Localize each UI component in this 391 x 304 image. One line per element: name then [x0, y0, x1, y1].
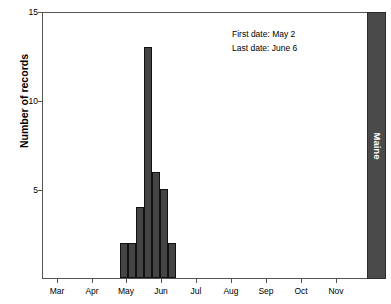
annotation-last-date: Last date: June 6	[232, 43, 297, 53]
bar-5	[160, 189, 168, 278]
x-tick-mark-mar	[57, 279, 58, 283]
panel-strip-maine: Maine	[367, 12, 386, 279]
x-tick-label-jul: Jul	[191, 286, 202, 296]
x-tick-mark-oct	[301, 279, 302, 283]
x-tick-label-aug: Aug	[223, 286, 238, 296]
y-tick-label-5: 5	[4, 185, 38, 195]
chart-figure: Number of records 15 10 5 Mar Apr May Ju…	[0, 0, 391, 304]
y-tick-label-10: 10	[4, 96, 38, 106]
x-tick-mark-aug	[231, 279, 232, 283]
x-tick-mark-sep	[266, 279, 267, 283]
bar-6	[168, 243, 176, 278]
bar-4	[152, 172, 160, 278]
y-axis-line	[42, 12, 43, 279]
x-tick-mark-jul	[196, 279, 197, 283]
x-tick-mark-apr	[92, 279, 93, 283]
bar-2	[136, 207, 144, 278]
annotation-first-date: First date: May 2	[232, 29, 295, 39]
x-tick-label-may: May	[118, 286, 134, 296]
x-tick-label-apr: Apr	[85, 286, 98, 296]
x-tick-label-nov: Nov	[328, 286, 343, 296]
x-tick-label-mar: Mar	[50, 286, 65, 296]
x-tick-mark-may	[126, 279, 127, 283]
x-tick-label-oct: Oct	[294, 286, 307, 296]
x-axis-line	[42, 278, 386, 279]
panel-strip-label: Maine	[371, 132, 382, 159]
bar-0	[120, 243, 128, 278]
plot-top-line	[42, 12, 386, 13]
bar-3	[144, 47, 152, 278]
x-tick-mark-nov	[336, 279, 337, 283]
x-tick-label-jun: Jun	[154, 286, 168, 296]
x-tick-label-sep: Sep	[258, 286, 273, 296]
y-tick-label-15: 15	[4, 7, 38, 17]
bar-1	[128, 243, 136, 278]
y-axis-ticks: 15 10 5	[0, 0, 38, 304]
x-tick-mark-jun	[161, 279, 162, 283]
